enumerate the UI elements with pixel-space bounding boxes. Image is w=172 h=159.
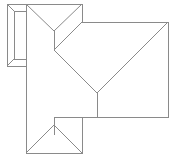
outer-outline	[26, 4, 168, 153]
valley-line	[54, 22, 82, 50]
front-gable-hip	[26, 117, 82, 153]
hip-line	[54, 4, 82, 31]
roof-plan-diagram	[0, 0, 172, 159]
building-outline	[26, 4, 168, 153]
roof-plan-svg	[0, 0, 172, 159]
hip-line	[97, 22, 168, 93]
side-wing-hip-top	[7, 4, 14, 11]
valley-line	[54, 50, 97, 93]
hip-line	[54, 125, 82, 153]
gable-outline	[54, 117, 82, 135]
left-wing-upper-hip	[26, 4, 97, 93]
main-block-hip	[97, 22, 168, 117]
side-wing-hip-bottom	[7, 59, 14, 66]
hip-line	[26, 125, 54, 153]
side-wing-outer	[7, 4, 26, 66]
hip-line	[26, 4, 54, 31]
side-wing	[7, 4, 26, 66]
side-wing-inner	[14, 11, 26, 59]
